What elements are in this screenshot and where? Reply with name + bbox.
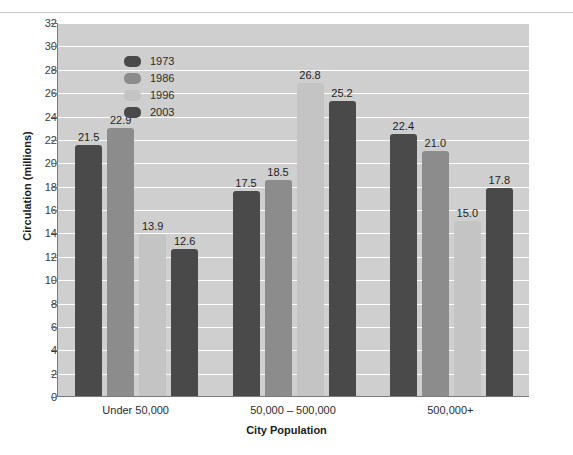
y-tick-mark [51,397,57,398]
legend-label: 2003 [150,106,174,119]
bar [107,128,134,396]
x-axis-title: City Population [0,424,573,436]
bar-value-label: 22.4 [393,120,414,132]
legend-label: 1973 [150,55,174,68]
bar [454,221,481,396]
bar [139,234,166,396]
bar [233,191,260,396]
top-divider-rule [0,12,573,13]
y-axis-ticks: 02468101214161820222426283032 [0,23,57,397]
bar-value-label: 17.5 [235,177,256,189]
bar-value-label: 15.0 [457,207,478,219]
bar [422,151,449,396]
bar [329,101,356,396]
legend-label: 1986 [150,72,174,85]
legend-swatch-icon [124,56,141,67]
legend-item: 1996 [124,88,234,104]
bar-value-label: 17.8 [489,174,510,186]
bar-value-label: 21.5 [78,131,99,143]
legend: 1973198619962003 [124,54,234,122]
x-category-label: Under 50,000 [102,404,169,416]
bar [75,145,102,396]
bar-value-label: 13.9 [142,220,163,232]
legend-item: 1973 [124,54,234,70]
gridline [58,23,529,24]
x-category-label: 50,000 – 500,000 [250,404,336,416]
bar-value-label: 25.2 [331,87,352,99]
bar [486,188,513,396]
legend-swatch-icon [124,90,141,101]
legend-swatch-icon [124,73,141,84]
plot-area: 21.522.913.912.617.518.526.825.222.421.0… [57,23,529,397]
chart-figure: Circulation (millions) 02468101214161820… [0,0,573,455]
legend-label: 1996 [150,89,174,102]
bar [171,249,198,396]
bar-value-label: 21.0 [425,137,446,149]
legend-item: 1986 [124,71,234,87]
legend-swatch-icon [124,107,141,118]
legend-item: 2003 [124,105,234,121]
bar [265,180,292,396]
x-category-label: 500,000+ [427,404,473,416]
bar [297,83,324,396]
bar-value-label: 26.8 [299,69,320,81]
bar-value-label: 18.5 [267,166,288,178]
bar [390,134,417,396]
bar-value-label: 12.6 [174,235,195,247]
gridline [58,46,529,47]
